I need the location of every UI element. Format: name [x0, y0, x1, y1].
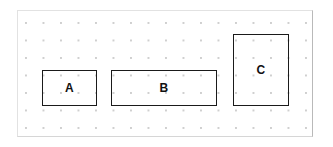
shape-label-c: C: [257, 64, 266, 76]
shape-label-a: A: [65, 82, 74, 94]
shape-label-b: B: [160, 82, 169, 94]
diagram-stage: A B C: [0, 0, 333, 147]
shape-rectangle-a[interactable]: A: [42, 70, 97, 106]
shape-rectangle-c[interactable]: C: [233, 34, 289, 106]
dotted-grid-canvas: A B C: [17, 10, 313, 137]
shape-rectangle-b[interactable]: B: [111, 70, 217, 106]
